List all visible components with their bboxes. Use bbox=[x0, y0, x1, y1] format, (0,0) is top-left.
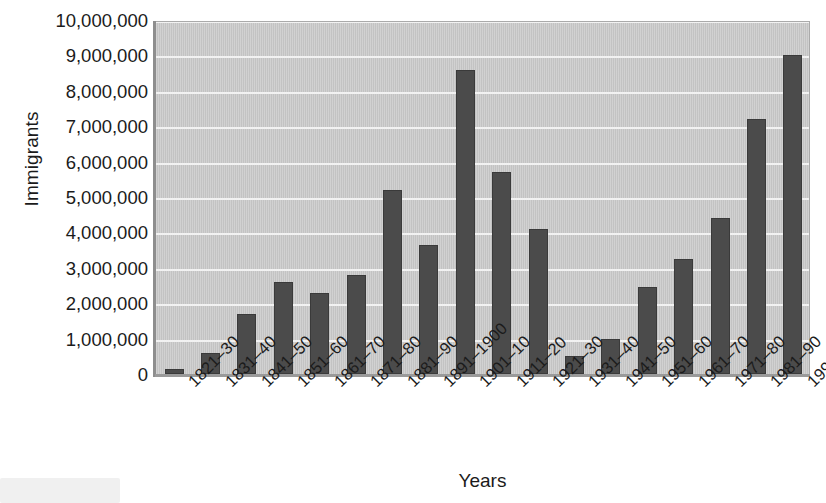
x-axis-tick-label: 1861–70 bbox=[331, 378, 343, 390]
x-axis-tick-label: 1941–50 bbox=[622, 378, 634, 390]
y-axis-line bbox=[153, 21, 156, 377]
x-axis-tick-labels: 1821–301831–401841–501851–601861–701871–… bbox=[155, 378, 815, 468]
y-axis-tick-label: 7,000,000 bbox=[20, 118, 148, 136]
x-axis-title: Years bbox=[155, 470, 810, 492]
x-axis-tick-label: 1821–30 bbox=[185, 378, 197, 390]
bar bbox=[783, 55, 802, 374]
y-axis-tick-label: 2,000,000 bbox=[20, 295, 148, 313]
y-axis-tick-label: 9,000,000 bbox=[20, 47, 148, 65]
x-axis-tick-label: 1921–30 bbox=[549, 378, 561, 390]
x-axis-tick-label: 1881–90 bbox=[404, 378, 416, 390]
x-axis-tick-label: 1891–1900 bbox=[440, 378, 452, 390]
y-axis-tick-label: 5,000,000 bbox=[20, 189, 148, 207]
x-axis-tick-label: 1871–80 bbox=[367, 378, 379, 390]
x-axis-tick-label: 1901–10 bbox=[476, 378, 488, 390]
y-axis-tick-label: 3,000,000 bbox=[20, 260, 148, 278]
x-axis-tick-label: 1851–60 bbox=[294, 378, 306, 390]
y-axis-tick-label: 6,000,000 bbox=[20, 154, 148, 172]
page-scan-artifact bbox=[0, 478, 120, 503]
y-axis-tick-labels: 10,000,0009,000,0008,000,0007,000,0006,0… bbox=[20, 0, 148, 503]
x-axis-tick-label: 1951–60 bbox=[658, 378, 670, 390]
immigration-bar-chart: Immigrants 10,000,0009,000,0008,000,0007… bbox=[0, 0, 826, 503]
x-axis-tick-label: 1831–40 bbox=[222, 378, 234, 390]
x-axis-tick-label: 1931–40 bbox=[585, 378, 597, 390]
y-axis-tick-label: 10,000,000 bbox=[20, 12, 148, 30]
y-axis-tick-label: 1,000,000 bbox=[20, 331, 148, 349]
x-axis-tick-label: 1841–50 bbox=[258, 378, 270, 390]
y-axis-tick-label: 4,000,000 bbox=[20, 224, 148, 242]
x-axis-tick-label: 1991–2000 bbox=[804, 378, 816, 390]
x-axis-tick-label: 1911–20 bbox=[513, 378, 525, 390]
x-axis-tick-label: 1961–70 bbox=[695, 378, 707, 390]
y-axis-tick-label: 8,000,000 bbox=[20, 83, 148, 101]
plot-area bbox=[155, 21, 810, 375]
x-axis-tick-label: 1981–90 bbox=[767, 378, 779, 390]
bars-layer bbox=[156, 22, 809, 374]
bar bbox=[456, 70, 475, 374]
bar bbox=[747, 119, 766, 374]
x-axis-tick-label: 1971–80 bbox=[731, 378, 743, 390]
y-axis-tick-label: 0 bbox=[20, 366, 148, 384]
